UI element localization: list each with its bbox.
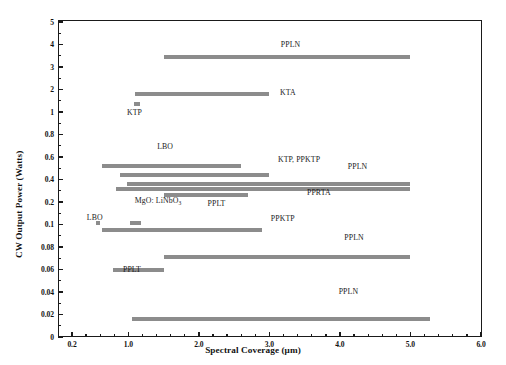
y-tick-minor (58, 168, 61, 169)
bar-label: PPLN (241, 40, 341, 49)
y-tick-label: 3 (14, 63, 54, 72)
x-tick-minor (353, 334, 354, 337)
x-tick (269, 332, 270, 337)
x-tick-minor (170, 334, 171, 337)
y-tick-label: 0.04 (14, 288, 54, 297)
x-tick-minor (382, 334, 383, 337)
x-tick (480, 332, 481, 337)
x-tick-minor (311, 334, 312, 337)
bar-label: PPKTP (271, 214, 295, 223)
y-tick-minor (58, 55, 61, 56)
data-bar (102, 164, 242, 168)
y-tick-minor (58, 78, 61, 79)
x-tick-minor (85, 334, 86, 337)
x-tick-minor (396, 334, 397, 337)
x-tick-minor (438, 334, 439, 337)
data-bar (132, 317, 430, 321)
x-tick-minor (184, 334, 185, 337)
y-tick-label: 0 (14, 333, 54, 342)
y-tick-label: 0.02 (14, 310, 54, 319)
x-tick-minor (368, 334, 369, 337)
y-tick-minor (58, 145, 61, 146)
x-tick-minor (100, 334, 101, 337)
data-bar (102, 228, 263, 232)
y-tick-minor (58, 325, 61, 326)
y-tick-label: 5 (14, 18, 54, 27)
y-tick-label: 4 (14, 40, 54, 49)
y-tick-minor (58, 190, 61, 191)
bar-label: LBO (115, 142, 215, 151)
bar-label: PPRTA (269, 188, 369, 197)
x-tick-minor (255, 334, 256, 337)
y-tick-minor (58, 303, 61, 304)
data-bar (130, 221, 141, 225)
data-bar (120, 173, 269, 177)
x-tick (198, 332, 199, 337)
y-tick (58, 134, 63, 135)
x-tick-minor (424, 334, 425, 337)
y-tick-minor (58, 258, 61, 259)
x-tick (339, 332, 340, 337)
y-tick (58, 314, 63, 315)
y-tick (58, 269, 63, 270)
y-tick (58, 66, 63, 67)
y-tick (58, 246, 63, 247)
x-tick (128, 332, 129, 337)
y-tick-minor (58, 33, 61, 34)
x-tick-minor (283, 334, 284, 337)
x-tick-minor (297, 334, 298, 337)
data-bar (127, 182, 410, 186)
data-bar (135, 92, 269, 96)
x-tick-minor (142, 334, 143, 337)
y-tick (58, 111, 63, 112)
y-tick (58, 89, 63, 90)
bar-label: KTA (280, 88, 296, 97)
bar-label: PPLN (298, 287, 398, 296)
x-tick-minor (241, 334, 242, 337)
y-tick (58, 201, 63, 202)
data-bar (134, 102, 140, 106)
y-tick-label: 0.8 (14, 130, 54, 139)
y-tick-label: 0.06 (14, 265, 54, 274)
bar-label: MgO: LiNbO3 (108, 196, 208, 205)
x-tick-minor (452, 334, 453, 337)
bar-label: PPLT (82, 265, 182, 274)
x-tick-minor (114, 334, 115, 337)
y-tick-minor (58, 213, 61, 214)
data-bar (164, 55, 411, 59)
y-tick (58, 291, 63, 292)
x-tick (71, 332, 72, 337)
chart-root: 543210.80.60.40.20.10.080.060.040.020 0.… (0, 0, 506, 365)
x-tick-minor (325, 334, 326, 337)
y-tick (58, 156, 63, 157)
y-tick (58, 179, 63, 180)
x-tick (410, 332, 411, 337)
y-tick-minor (58, 123, 61, 124)
y-tick-minor (58, 280, 61, 281)
y-tick (58, 44, 63, 45)
bar-label: PPLN (308, 162, 408, 171)
y-tick-label: 2 (14, 85, 54, 94)
bar-label: LBO (87, 213, 103, 222)
x-tick-minor (212, 334, 213, 337)
bar-label: PPLN (304, 233, 404, 242)
y-tick (58, 21, 63, 22)
y-axis-title: CW Output Power (Watts) (14, 151, 24, 258)
x-tick-minor (466, 334, 467, 337)
plot-frame (58, 20, 482, 337)
y-tick (58, 336, 63, 337)
data-bar (164, 255, 411, 259)
y-tick-label: 1 (14, 108, 54, 117)
bar-label: KTP (127, 108, 142, 117)
y-tick-minor (58, 235, 61, 236)
x-tick-minor (226, 334, 227, 337)
y-tick (58, 224, 63, 225)
x-axis-title: Spectral Coverage (μm) (0, 345, 506, 355)
x-tick-minor (156, 334, 157, 337)
y-tick-minor (58, 100, 61, 101)
